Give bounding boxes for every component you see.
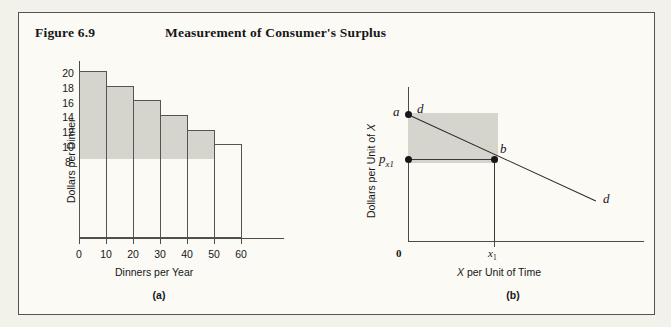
- bar-1: [79, 71, 107, 238]
- panel-a-caption: (a): [139, 289, 179, 301]
- point-b-label: b: [500, 141, 507, 157]
- panel-a-bar-chart: Dollars per Dinner 20 18 16 14 12 10 8: [19, 13, 339, 316]
- point-a-dot: [405, 111, 412, 118]
- bar-5: [187, 130, 215, 238]
- bar-4: [160, 115, 188, 238]
- panel-a-x-tick-50: [214, 238, 215, 244]
- panel-a-x-label-30: 30: [149, 248, 171, 260]
- panel-a-x-label-20: 20: [122, 248, 144, 260]
- bar-2: [106, 86, 134, 238]
- curve-label-bottom: d: [603, 191, 610, 207]
- panel-b-y-axis-title-text: Dollars per Unit of: [365, 131, 377, 218]
- panel-a-x-label-0: 0: [68, 248, 90, 260]
- panel-a-x-label-10: 10: [95, 248, 117, 260]
- point-a-label: a: [393, 104, 400, 120]
- price-axis-label: px1: [379, 151, 394, 169]
- panel-a-y-tick-18: 18: [57, 82, 79, 94]
- figure-card: Figure 6.9 Measurement of Consumer's Sur…: [18, 12, 655, 315]
- panel-a-y-tick-16: 16: [57, 97, 79, 109]
- panel-a-x-tick-60: [241, 238, 242, 244]
- bar-3: [133, 100, 161, 238]
- panel-b-x-axis-line: [408, 241, 644, 242]
- panel-b-x-axis-title: X per Unit of Time: [457, 266, 541, 278]
- panel-a-x-label-40: 40: [176, 248, 198, 260]
- panel-b-x1-label: x1: [488, 247, 497, 262]
- panel-a-x-tick-10: [106, 238, 107, 244]
- panel-a-y-tick-14: 14: [57, 111, 79, 123]
- panel-a-x-tick-20: [133, 238, 134, 244]
- panel-a-x-label-50: 50: [203, 248, 225, 260]
- panel-a-x-tick-30: [160, 238, 161, 244]
- panel-a-y-tick-20: 20: [57, 67, 79, 79]
- price-guide-line: [408, 159, 495, 160]
- panel-b-x1-sub: 1: [493, 253, 497, 262]
- point-b-dot: [491, 156, 498, 163]
- panel-a-y-tick-10: 10: [57, 141, 79, 153]
- panel-a-y-tick-8: 8: [57, 156, 79, 168]
- panel-b-x-axis-title-text: per Unit of Time: [464, 266, 541, 278]
- quantity-guide-line: [494, 159, 495, 241]
- panel-b-origin-label: 0: [396, 247, 402, 259]
- panel-a-x-axis-line: [79, 238, 284, 239]
- panel-a-x-tick-40: [187, 238, 188, 244]
- panel-a-x-label-60: 60: [230, 248, 252, 260]
- point-px1-dot: [405, 156, 412, 163]
- price-axis-label-sub: x1: [386, 159, 394, 169]
- curve-label-top: d: [417, 101, 424, 117]
- panel-b-y-axis-title-var: X: [365, 124, 377, 131]
- bar-6: [214, 144, 242, 238]
- panel-b-caption: (b): [493, 289, 533, 301]
- panel-a-x-tick-0: [79, 238, 80, 244]
- panel-a-y-tick-12: 12: [57, 126, 79, 138]
- panel-b-x-axis-title-var: X: [457, 266, 464, 278]
- panel-b-demand-chart: Dollars per Unit of X a d b d px1 0: [339, 13, 656, 316]
- panel-a-x-axis-title: Dinners per Year: [115, 266, 193, 278]
- panel-b-y-axis-title: Dollars per Unit of X: [365, 124, 377, 218]
